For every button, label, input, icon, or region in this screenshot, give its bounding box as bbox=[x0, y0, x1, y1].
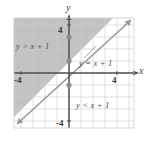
graph-canvas bbox=[0, 0, 150, 145]
y-axis-tick-label-4: 4 bbox=[58, 26, 63, 35]
x-axis-tick-label-4: 4 bbox=[112, 76, 117, 85]
plotted-point-below bbox=[66, 82, 71, 87]
plotted-point-above bbox=[66, 34, 71, 39]
region-label-below: y < x + 1 bbox=[76, 101, 110, 110]
x-axis-label: x bbox=[139, 66, 143, 76]
region-label-above: y > x + 1 bbox=[16, 42, 50, 51]
y-axis-label: y bbox=[66, 3, 70, 13]
boundary-line-label: y = x + 1 bbox=[79, 59, 113, 68]
x-axis-tick-label-negative-4: -4 bbox=[14, 76, 22, 85]
plotted-point-on-line bbox=[66, 58, 71, 63]
y-axis-tick-label-negative-4: -4 bbox=[56, 119, 64, 128]
coordinate-plane-figure: y > x + 1 y = x + 1 y < x + 1 -4 4 4 -4 … bbox=[0, 0, 150, 145]
